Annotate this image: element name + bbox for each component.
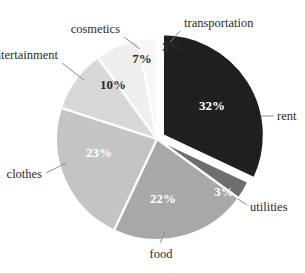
pct-label-utilities: 3% bbox=[214, 184, 234, 199]
category-label-cosmetics: cosmetics bbox=[71, 22, 120, 36]
pie-chart-svg: 32% 3% 22% 23% 10% 7% 3% rent utilities … bbox=[0, 0, 305, 273]
category-label-entertainment: entertainment bbox=[0, 48, 59, 62]
pct-label-food: 22% bbox=[150, 191, 176, 206]
category-label-clothes: clothes bbox=[7, 167, 43, 181]
pct-label-entertainment: 10% bbox=[100, 77, 126, 92]
category-label-food: food bbox=[150, 247, 174, 261]
leader-line-utilities bbox=[238, 199, 247, 205]
category-label-rent: rent bbox=[277, 109, 297, 123]
pie-slices bbox=[56, 34, 264, 240]
pct-label-rent: 32% bbox=[199, 98, 225, 113]
category-label-utilities: utilities bbox=[250, 200, 288, 214]
pie-chart-figure: 32% 3% 22% 23% 10% 7% 3% rent utilities … bbox=[0, 0, 305, 273]
pct-label-cosmetics: 7% bbox=[132, 51, 152, 66]
pct-label-transportation: 3% bbox=[162, 39, 182, 54]
category-label-transportation: transportation bbox=[184, 16, 254, 30]
pct-label-clothes: 23% bbox=[86, 145, 112, 160]
